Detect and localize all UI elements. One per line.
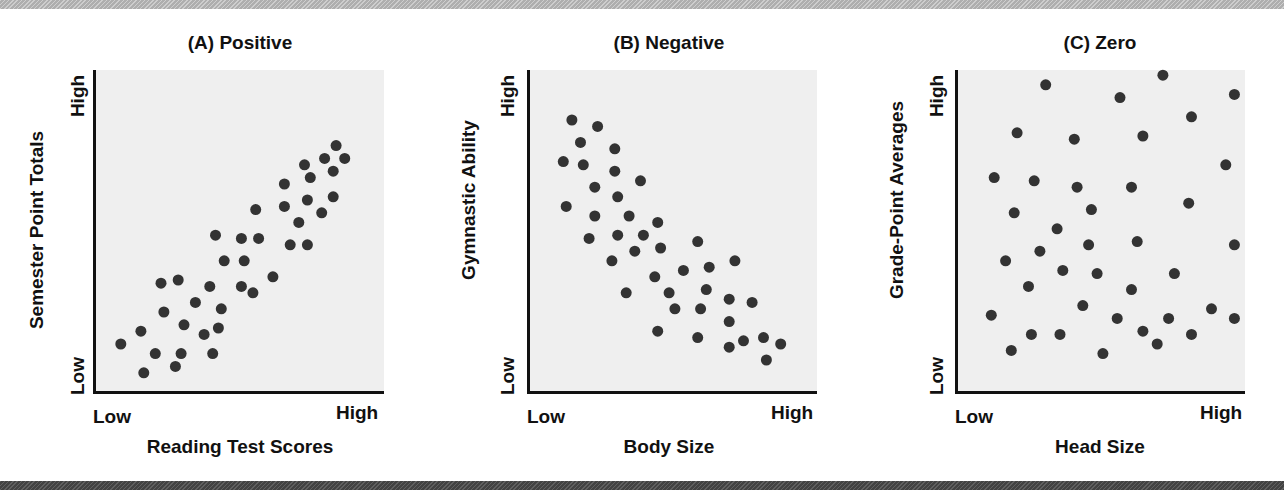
data-point xyxy=(1077,300,1088,311)
data-point xyxy=(1009,207,1020,218)
data-point xyxy=(1092,268,1103,279)
data-point xyxy=(1186,329,1197,340)
data-point xyxy=(1057,265,1068,276)
data-point xyxy=(1112,313,1123,324)
data-point xyxy=(1052,223,1063,234)
data-point xyxy=(1006,345,1017,356)
data-point xyxy=(1012,127,1023,138)
data-point xyxy=(1083,239,1094,250)
data-point xyxy=(1137,326,1148,337)
data-point xyxy=(1157,70,1168,81)
data-point xyxy=(1126,182,1137,193)
data-point xyxy=(1229,239,1240,250)
data-point xyxy=(1000,255,1011,266)
data-point xyxy=(1220,159,1231,170)
data-point xyxy=(1132,236,1143,247)
data-point xyxy=(989,172,1000,183)
panel-title: (C) Zero xyxy=(1064,32,1137,54)
data-point xyxy=(1126,284,1137,295)
data-point xyxy=(1040,79,1051,90)
x-axis-title: Head Size xyxy=(1055,436,1145,458)
data-point xyxy=(1026,329,1037,340)
data-point xyxy=(1163,313,1174,324)
data-point xyxy=(1186,111,1197,122)
bottom-border-band xyxy=(0,481,1284,490)
scatter-svg xyxy=(955,70,1245,394)
data-point xyxy=(1169,268,1180,279)
data-point xyxy=(1029,175,1040,186)
data-point xyxy=(1072,182,1083,193)
x-tick-high: High xyxy=(1200,402,1242,424)
data-point xyxy=(1034,246,1045,257)
data-point xyxy=(1097,348,1108,359)
plot-background xyxy=(955,70,1245,394)
y-tick-low: Low xyxy=(926,357,948,395)
data-point xyxy=(1229,313,1240,324)
data-point xyxy=(1055,329,1066,340)
x-tick-low: Low xyxy=(955,406,993,428)
data-point xyxy=(1206,303,1217,314)
scatter-plot xyxy=(955,70,1245,394)
data-point xyxy=(986,310,997,321)
data-point xyxy=(1183,198,1194,209)
data-point xyxy=(1152,339,1163,350)
panel-zero: (C) Zero Grade-Point Averages High Low L… xyxy=(0,0,1284,480)
y-axis-title: Grade-Point Averages xyxy=(886,101,908,299)
data-point xyxy=(1023,281,1034,292)
data-point xyxy=(1229,89,1240,100)
y-tick-high: High xyxy=(926,75,948,117)
data-point xyxy=(1086,204,1097,215)
data-point xyxy=(1069,134,1080,145)
data-point xyxy=(1137,131,1148,142)
data-point xyxy=(1115,92,1126,103)
